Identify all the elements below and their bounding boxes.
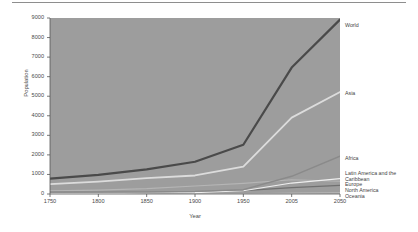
x-tick-label: 1800 <box>78 199 118 205</box>
x-tick-label: 2050 <box>320 199 360 205</box>
series-line-world <box>50 20 340 179</box>
series-label-world: World <box>345 22 359 28</box>
y-tick-label: 0 <box>18 191 44 197</box>
series-label-asia: Asia <box>345 90 355 96</box>
y-axis-title: Population <box>23 53 29 113</box>
series-line-asia <box>50 92 340 184</box>
series-label-oceania: Oceania <box>345 193 365 199</box>
x-tick-label: 1750 <box>30 199 70 205</box>
y-tick-label: 1000 <box>18 171 44 177</box>
x-tick-label: 1850 <box>127 199 167 205</box>
series-label-africa: Africa <box>345 155 359 161</box>
x-tick-label: 1950 <box>223 199 263 205</box>
series-canvas <box>50 18 340 194</box>
y-tick-label: 7000 <box>18 54 44 60</box>
plot-area <box>50 18 340 194</box>
x-tick-label: 2005 <box>272 199 312 205</box>
y-tick-label: 2000 <box>18 152 44 158</box>
x-tick-label: 1900 <box>175 199 215 205</box>
y-tick-label: 4000 <box>18 113 44 119</box>
y-tick-label: 6000 <box>18 74 44 80</box>
y-tick-label: 3000 <box>18 132 44 138</box>
x-axis-title: Year <box>155 213 235 219</box>
y-tick-label: 9000 <box>18 15 44 21</box>
y-tick-label: 5000 <box>18 93 44 99</box>
population-line-chart: Population Year 010002000300040005000600… <box>0 0 418 232</box>
y-tick-label: 8000 <box>18 35 44 41</box>
